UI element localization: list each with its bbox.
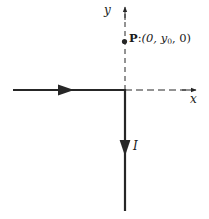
point-p-subscript: 0 xyxy=(167,37,172,46)
current-label: I xyxy=(133,140,138,152)
point-p-coordinates-head: (0, y xyxy=(142,31,168,45)
physics-diagram-figure: y x I P:(0, y0, 0) xyxy=(0,0,209,219)
y-axis-label: y xyxy=(104,4,111,16)
point-p-marker xyxy=(122,39,127,44)
horizontal-wire xyxy=(13,85,125,96)
point-p-name: P xyxy=(129,31,138,45)
vertical-wire-current-arrow xyxy=(120,140,131,156)
x-axis-label: x xyxy=(190,93,197,105)
vertical-wire xyxy=(120,89,131,211)
point-p-coordinates-tail: , 0) xyxy=(172,31,191,45)
point-p-label: P:(0, y0, 0) xyxy=(129,33,191,45)
horizontal-wire-current-arrow xyxy=(58,85,74,96)
